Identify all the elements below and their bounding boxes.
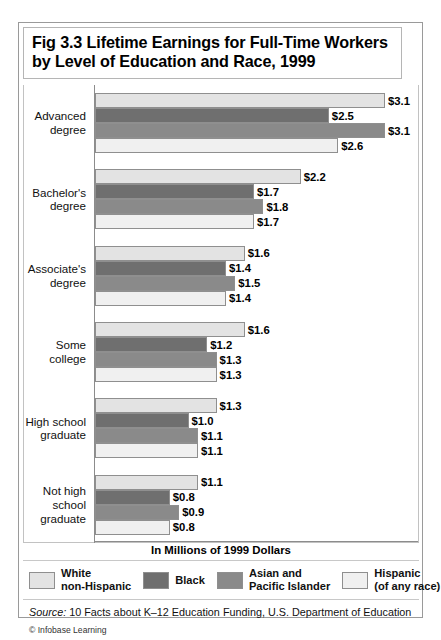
legend-item: White non-Hispanic xyxy=(29,567,131,593)
bar-value-label: $1.2 xyxy=(210,339,232,351)
figure-container: Fig 3.3 Lifetime Earnings for Full-Time … xyxy=(18,22,423,618)
bar xyxy=(95,475,198,490)
bar xyxy=(95,184,254,199)
bar xyxy=(95,352,217,367)
bars-column: $1.6$1.4$1.5$1.4 xyxy=(94,238,418,314)
bar-row: $0.8 xyxy=(95,520,418,535)
bar-value-label: $2.6 xyxy=(341,140,363,152)
bar-row: $1.4 xyxy=(95,261,418,276)
bar-row: $2.6 xyxy=(95,138,418,153)
bar-value-label: $1.7 xyxy=(257,216,279,228)
bar-row: $3.1 xyxy=(95,93,418,108)
category-label: High school graduate xyxy=(24,415,94,442)
bars-column: $3.1$2.5$3.1$2.6 xyxy=(94,85,418,161)
bar-row: $1.1 xyxy=(95,428,418,443)
bar-row: $1.1 xyxy=(95,443,418,458)
bar-row: $1.0 xyxy=(95,413,418,428)
bar-value-label: $1.6 xyxy=(248,247,270,259)
bar xyxy=(95,367,217,382)
bar-value-label: $1.8 xyxy=(266,201,288,213)
category-label: Bachelor's degree xyxy=(24,186,94,213)
bar-value-label: $1.3 xyxy=(220,400,242,412)
bar-value-label: $1.4 xyxy=(229,262,251,274)
bar-value-label: $0.9 xyxy=(182,506,204,518)
bar-row: $1.6 xyxy=(95,246,418,261)
legend-item: Asian and Pacific Islander xyxy=(217,567,330,593)
bar-value-label: $1.4 xyxy=(229,292,251,304)
source-note: Source: 10 Facts about K–12 Education Fu… xyxy=(29,606,411,618)
bar-row: $1.7 xyxy=(95,214,418,229)
bar xyxy=(95,413,189,428)
legend-swatch xyxy=(342,572,368,589)
bar xyxy=(95,322,245,337)
legend-item: Black xyxy=(143,572,205,589)
legend-swatch xyxy=(29,572,55,589)
bar-group: Bachelor's degree$2.2$1.7$1.8$1.7 xyxy=(24,161,418,237)
bar-group: Advanced degree$3.1$2.5$3.1$2.6 xyxy=(24,85,418,161)
bar-value-label: $3.1 xyxy=(388,95,410,107)
bar-row: $2.2 xyxy=(95,169,418,184)
bar xyxy=(95,199,263,214)
bar-value-label: $1.3 xyxy=(220,369,242,381)
copyright-icon: © xyxy=(29,625,35,635)
page-title: Fig 3.3 Lifetime Earnings for Full-Time … xyxy=(32,33,393,71)
legend: White non-HispanicBlackAsian and Pacific… xyxy=(23,560,419,600)
legend-label: Black xyxy=(175,574,205,587)
bar-value-label: $3.1 xyxy=(388,125,410,137)
bar-row: $1.8 xyxy=(95,199,418,214)
bar-value-label: $1.1 xyxy=(201,445,223,457)
bar xyxy=(95,169,301,184)
bar-value-label: $0.8 xyxy=(173,491,195,503)
x-axis-label: In Millions of 1999 Dollars xyxy=(23,544,419,556)
legend-label: White non-Hispanic xyxy=(61,567,131,593)
bar xyxy=(95,291,226,306)
bar-value-label: $1.0 xyxy=(192,415,214,427)
legend-swatch xyxy=(217,572,243,589)
bar xyxy=(95,138,338,153)
bar-group: Some college$1.6$1.2$1.3$1.3 xyxy=(24,314,418,390)
bar-value-label: $1.1 xyxy=(201,476,223,488)
bars-column: $1.6$1.2$1.3$1.3 xyxy=(94,314,418,390)
bar-value-label: $1.3 xyxy=(220,354,242,366)
bar-row: $3.1 xyxy=(95,123,418,138)
bar-row: $1.6 xyxy=(95,322,418,337)
bar-value-label: $1.5 xyxy=(238,277,260,289)
bar-value-label: $1.7 xyxy=(257,186,279,198)
bar-row: $1.3 xyxy=(95,398,418,413)
bar-row: $1.5 xyxy=(95,276,418,291)
source-text: 10 Facts about K–12 Education Funding, U… xyxy=(69,606,411,618)
x-axis-baseline xyxy=(94,541,418,542)
bar-row: $2.5 xyxy=(95,108,418,123)
bar-value-label: $2.5 xyxy=(332,110,354,122)
bar-row: $1.1 xyxy=(95,475,418,490)
bar xyxy=(95,490,170,505)
source-label: Source: xyxy=(29,606,66,618)
bar xyxy=(95,520,170,535)
copyright-note: © Infobase Learning xyxy=(29,625,107,635)
category-label: Associate's degree xyxy=(24,262,94,289)
bar-groups-container: Advanced degree$3.1$2.5$3.1$2.6Bachelor'… xyxy=(24,85,418,542)
bar-row: $1.4 xyxy=(95,291,418,306)
category-label: Not high school graduate xyxy=(24,484,94,525)
bars-column: $2.2$1.7$1.8$1.7 xyxy=(94,161,418,237)
legend-swatch xyxy=(143,572,169,589)
bar-group: Not high school graduate$1.1$0.8$0.9$0.8 xyxy=(24,467,418,543)
bar xyxy=(95,337,207,352)
bar-value-label: $1.6 xyxy=(248,324,270,336)
bar xyxy=(95,123,385,138)
bar xyxy=(95,398,217,413)
bar-group: High school graduate$1.3$1.0$1.1$1.1 xyxy=(24,390,418,466)
bar xyxy=(95,214,254,229)
bar-row: $0.9 xyxy=(95,505,418,520)
bar xyxy=(95,108,329,123)
bar xyxy=(95,428,198,443)
bar-value-label: $1.1 xyxy=(201,430,223,442)
bar xyxy=(95,276,235,291)
legend-label: Hispanic (of any race) xyxy=(374,567,440,593)
bar-row: $0.8 xyxy=(95,490,418,505)
plot-area: Advanced degree$3.1$2.5$3.1$2.6Bachelor'… xyxy=(23,85,419,543)
bar xyxy=(95,93,385,108)
category-label: Advanced degree xyxy=(24,109,94,136)
bar-row: $1.3 xyxy=(95,367,418,382)
bar xyxy=(95,246,245,261)
